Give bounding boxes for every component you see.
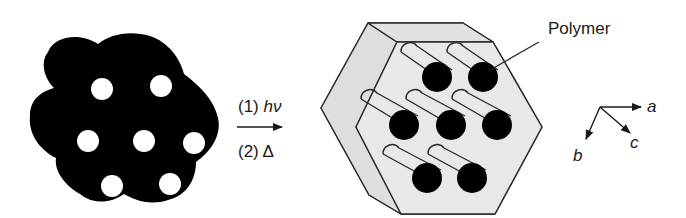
axis-label-c: c: [630, 134, 639, 151]
axis-label-a: a: [647, 98, 656, 115]
polymer-label: Polymer: [548, 20, 610, 37]
photon-symbol: hν: [264, 97, 282, 116]
reaction-step-2-label: (2) Δ: [238, 143, 274, 160]
porous-aggregate-blob: [30, 33, 219, 202]
reaction-step-1-label: (1) hν: [238, 98, 281, 115]
diagram-figure: (1) hν (2) Δ Polymer a b c: [0, 0, 686, 218]
step1-number: (1): [238, 97, 259, 116]
step2-number: (2): [238, 142, 259, 161]
axis-label-b: b: [573, 147, 582, 164]
hexagonal-crystal: [321, 23, 542, 214]
heat-symbol: Δ: [263, 142, 274, 161]
